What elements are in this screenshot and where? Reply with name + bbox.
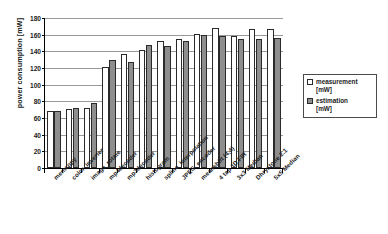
legend-label: estimation[mW] bbox=[316, 97, 348, 113]
x-tick-mark bbox=[245, 169, 246, 173]
bar-group bbox=[118, 18, 136, 168]
bar-group bbox=[246, 18, 264, 168]
legend-label: measurement[mW] bbox=[316, 78, 358, 94]
bar-group bbox=[228, 18, 246, 168]
bar-measurement bbox=[231, 36, 237, 168]
y-tick-label: 100 bbox=[30, 81, 41, 88]
legend-swatch-measurement bbox=[307, 79, 313, 85]
plot-area: 020406080100120140160180 bbox=[44, 18, 283, 169]
y-tick-label: 40 bbox=[34, 131, 41, 138]
bar-chart: power consumption [mW] 02040608010012014… bbox=[0, 0, 388, 234]
bar-group bbox=[100, 18, 118, 168]
bar-estimation bbox=[274, 38, 280, 168]
x-tick-mark bbox=[264, 169, 265, 173]
bar-estimation bbox=[73, 108, 79, 168]
legend-entry[interactable]: estimation[mW] bbox=[307, 97, 373, 113]
y-axis-title: power consumption [mW] bbox=[13, 3, 27, 123]
bar-group bbox=[173, 18, 191, 168]
bar-measurement bbox=[66, 109, 72, 168]
x-tick-mark bbox=[136, 169, 137, 173]
bar-estimation bbox=[219, 36, 225, 168]
x-tick-mark bbox=[172, 169, 173, 173]
y-tick-label: 160 bbox=[30, 31, 41, 38]
x-tick-mark bbox=[99, 169, 100, 173]
y-tick-label: 120 bbox=[30, 65, 41, 72]
legend-swatch-estimation bbox=[307, 98, 313, 104]
y-tick-label: 80 bbox=[34, 98, 41, 105]
bar-measurement bbox=[47, 111, 53, 168]
bar-measurement bbox=[84, 108, 90, 168]
bar-estimation bbox=[238, 39, 244, 168]
bar-group bbox=[45, 18, 63, 168]
bar-group bbox=[210, 18, 228, 168]
bar-group bbox=[155, 18, 173, 168]
y-tick-label: 20 bbox=[34, 148, 41, 155]
legend-series-name: estimation bbox=[316, 97, 348, 104]
legend-series-unit: [mW] bbox=[316, 105, 348, 113]
bar-measurement bbox=[267, 29, 273, 168]
bar-measurement bbox=[194, 34, 200, 168]
bar-group bbox=[63, 18, 81, 168]
bar-measurement bbox=[102, 67, 108, 168]
bar-measurement bbox=[176, 39, 182, 168]
bar-group bbox=[82, 18, 100, 168]
legend-series-name: measurement bbox=[316, 78, 358, 85]
bar-estimation bbox=[146, 45, 152, 168]
y-tick-label: 60 bbox=[34, 115, 41, 122]
bar-group bbox=[191, 18, 209, 168]
bar-estimation bbox=[164, 46, 170, 169]
bar-estimation bbox=[91, 103, 97, 168]
y-tick-label: 0 bbox=[37, 165, 41, 172]
x-axis-ticks bbox=[44, 169, 282, 174]
legend-series-unit: [mW] bbox=[316, 86, 358, 94]
bar-group bbox=[137, 18, 155, 168]
bar-measurement bbox=[121, 54, 127, 168]
x-tick-mark bbox=[282, 169, 283, 173]
x-tick-mark bbox=[62, 169, 63, 173]
bar-measurement bbox=[139, 50, 145, 168]
bar-measurement bbox=[249, 29, 255, 168]
x-tick-mark bbox=[117, 169, 118, 173]
bar-group bbox=[265, 18, 283, 168]
x-tick-mark bbox=[44, 169, 45, 173]
bar-estimation bbox=[183, 41, 189, 169]
chart-legend: measurement[mW]estimation[mW] bbox=[303, 74, 377, 118]
bar-estimation bbox=[201, 35, 207, 168]
bar-estimation bbox=[109, 60, 115, 168]
bar-estimation bbox=[54, 111, 60, 169]
bars-layer bbox=[45, 18, 283, 168]
bar-measurement bbox=[157, 41, 163, 168]
y-tick-label: 140 bbox=[30, 48, 41, 55]
y-tick-label: 180 bbox=[30, 15, 41, 22]
bar-estimation bbox=[128, 62, 134, 168]
x-tick-mark bbox=[209, 169, 210, 173]
legend-entry[interactable]: measurement[mW] bbox=[307, 78, 373, 94]
x-tick-mark bbox=[190, 169, 191, 173]
x-tick-mark bbox=[227, 169, 228, 173]
bar-measurement bbox=[212, 28, 218, 168]
x-tick-mark bbox=[154, 169, 155, 173]
bar-estimation bbox=[256, 39, 262, 168]
x-tick-mark bbox=[81, 169, 82, 173]
